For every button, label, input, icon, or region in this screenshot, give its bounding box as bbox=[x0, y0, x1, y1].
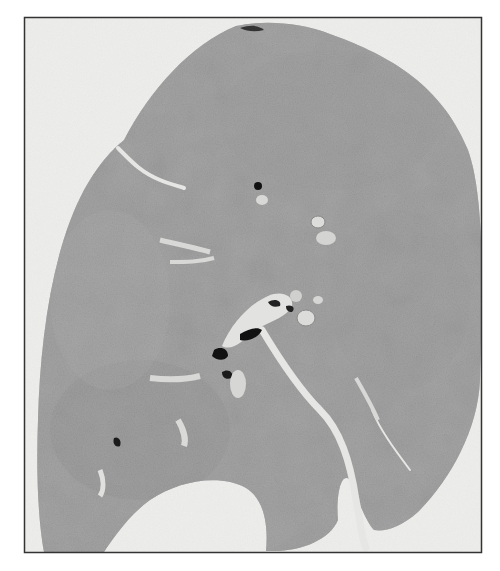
vessel bbox=[256, 195, 268, 205]
vessel bbox=[290, 290, 302, 302]
vessel bbox=[230, 370, 246, 398]
figure bbox=[0, 0, 500, 571]
vessel bbox=[316, 231, 336, 245]
vessel bbox=[297, 310, 315, 326]
vessel bbox=[313, 296, 323, 304]
lung-micrograph bbox=[0, 0, 500, 571]
vessel bbox=[254, 182, 262, 190]
vessel-branch bbox=[150, 376, 200, 379]
vessel bbox=[311, 216, 325, 228]
